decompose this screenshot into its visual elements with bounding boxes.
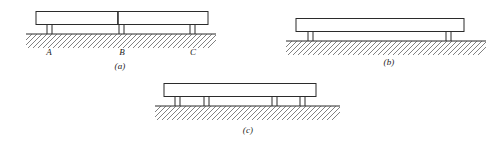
beam-body [296,19,464,32]
panel-c: (c) [140,72,380,142]
ground-hatching [18,34,222,48]
panel-b: (b) [272,0,504,72]
panel-a: A B C (a) [0,0,250,72]
caption-b: (b) [369,57,409,67]
ground-hatching [278,41,492,55]
ground-hatching [147,106,346,120]
caption-c: (c) [228,125,268,135]
figure-root: A B C (a) [0,0,504,142]
beam-segment-left [36,12,118,25]
support-label-b: B [113,47,131,57]
beam-body [164,84,316,97]
support-label-c: C [184,47,202,57]
beam-segment-right [118,12,208,25]
support-label-a: A [40,47,58,57]
caption-a: (a) [100,61,140,71]
